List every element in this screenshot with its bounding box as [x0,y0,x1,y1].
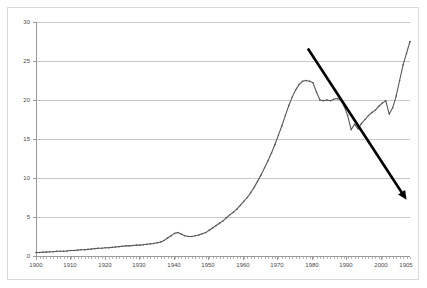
data-point-marker [101,247,103,249]
data-point-marker [94,248,96,250]
data-point-marker [129,245,131,247]
trend-arrow-line [308,49,403,194]
data-point-marker [52,251,54,253]
data-point-marker [139,244,141,246]
data-point-marker [77,249,79,251]
chart-container: 30 25 20 15 10 5 0 1900 1910 1920 1930 1… [0,0,427,288]
data-point-marker [42,251,44,253]
data-point-marker [90,248,92,250]
data-point-marker [49,251,51,253]
data-point-marker [115,246,117,248]
data-point-marker [87,248,89,250]
data-point-marker [70,250,72,252]
data-point-marker [35,252,37,254]
data-point-marker [132,245,134,247]
data-point-marker [125,245,127,247]
data-point-marker [45,251,47,253]
data-point-marker [104,247,106,249]
data-point-marker [142,244,144,246]
data-series-markers [35,41,411,254]
data-point-marker [146,243,148,245]
data-point-marker [66,250,68,252]
data-point-marker [39,252,41,254]
data-point-marker [97,247,99,249]
chart-plot-layer [0,0,427,288]
data-point-marker [84,249,86,251]
data-point-marker [122,245,124,247]
data-point-marker [149,243,151,245]
data-point-marker [118,246,120,248]
data-point-marker [56,250,58,252]
data-point-marker [135,244,137,246]
data-point-marker [63,250,65,252]
data-point-marker [73,250,75,252]
trend-arrow [308,49,407,200]
data-point-marker [80,249,82,251]
data-point-marker [108,247,110,249]
data-point-marker [111,246,113,248]
data-point-marker [59,250,61,252]
